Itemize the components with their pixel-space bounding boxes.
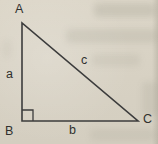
side-label-b: b [69,123,76,137]
vertex-label-c: C [143,112,152,126]
side-label-a: a [6,67,13,81]
vertex-label-a: A [15,2,23,16]
right-angle-marker [22,110,33,121]
side-label-c: c [81,53,87,67]
scanned-page: A B C a b c [0,0,158,144]
triangle-outline [22,23,138,121]
vertex-label-b: B [5,124,13,138]
right-triangle-figure [0,0,158,144]
